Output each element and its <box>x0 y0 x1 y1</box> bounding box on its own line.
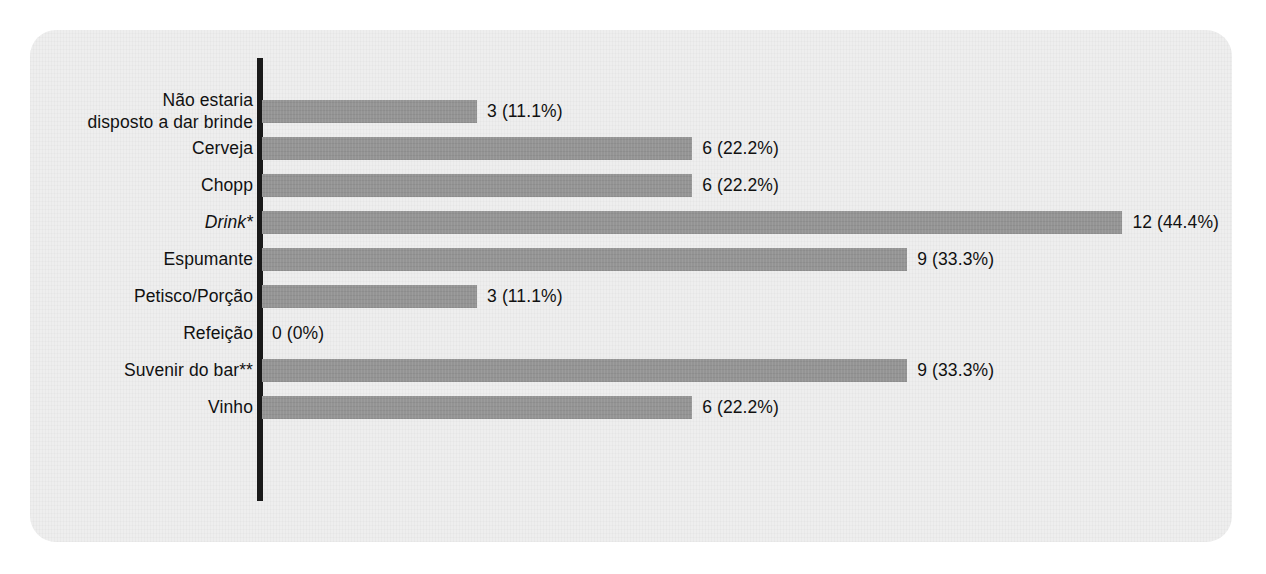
bar <box>262 211 1122 234</box>
bar-row: Espumante9 (33.3%) <box>0 241 1266 278</box>
bar <box>262 174 692 197</box>
bar <box>262 396 692 419</box>
category-label: Cerveja <box>192 130 253 167</box>
bar-value-label: 0 (0%) <box>272 322 324 345</box>
bar-value-label: 9 (33.3%) <box>917 248 994 271</box>
bar-texture-overlay <box>262 174 692 197</box>
bar-value-label: 9 (33.3%) <box>917 359 994 382</box>
bar-row: Chopp6 (22.2%) <box>0 167 1266 204</box>
bar-texture-overlay <box>262 248 907 271</box>
bar-value-label: 3 (11.1%) <box>487 100 562 123</box>
bar <box>262 137 692 160</box>
bar-texture-overlay <box>262 396 692 419</box>
bar-row: Drink*12 (44.4%) <box>0 204 1266 241</box>
category-label: Refeição <box>183 315 253 352</box>
chart-page: Não estaria disposto a dar brinde3 (11.1… <box>0 0 1266 574</box>
bar <box>262 100 477 123</box>
category-label: Não estaria disposto a dar brinde <box>87 93 253 130</box>
bar-value-label: 6 (22.2%) <box>702 174 779 197</box>
category-label: Drink* <box>205 204 253 241</box>
bar-texture-overlay <box>262 359 907 382</box>
bar-value-label: 6 (22.2%) <box>702 396 779 419</box>
bar-texture-overlay <box>262 100 477 123</box>
bar-row: Refeição0 (0%) <box>0 315 1266 352</box>
bar-row: Suvenir do bar**9 (33.3%) <box>0 352 1266 389</box>
bar <box>262 285 477 308</box>
bar-value-label: 12 (44.4%) <box>1132 211 1219 234</box>
category-label: Vinho <box>208 389 253 426</box>
bar-texture-overlay <box>262 137 692 160</box>
bar <box>262 248 907 271</box>
bar-value-label: 6 (22.2%) <box>702 137 779 160</box>
bar-row: Cerveja6 (22.2%) <box>0 130 1266 167</box>
category-label: Suvenir do bar** <box>124 352 253 389</box>
category-label: Petisco/Porção <box>134 278 253 315</box>
bar-row: Vinho6 (22.2%) <box>0 389 1266 426</box>
bar <box>262 359 907 382</box>
bar-row: Petisco/Porção3 (11.1%) <box>0 278 1266 315</box>
bar-texture-overlay <box>262 285 477 308</box>
bar-value-label: 3 (11.1%) <box>487 285 562 308</box>
bar-texture-overlay <box>262 211 1122 234</box>
category-label: Chopp <box>201 167 253 204</box>
category-label: Espumante <box>164 241 253 278</box>
bar-row: Não estaria disposto a dar brinde3 (11.1… <box>0 93 1266 130</box>
horizontal-bar-chart: Não estaria disposto a dar brinde3 (11.1… <box>0 0 1266 574</box>
